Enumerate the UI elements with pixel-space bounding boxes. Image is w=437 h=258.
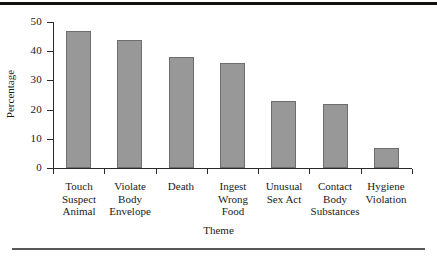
x-axis-tick [309,169,310,174]
y-axis-tick-label: 0 [36,162,42,173]
y-axis-tick [47,51,53,52]
bar [66,31,91,168]
category-label-line: Body [91,193,169,206]
y-axis-line [53,22,54,169]
bottom-rule-divider [12,248,425,250]
x-axis-title: Theme [0,224,437,236]
x-axis-tick [412,169,413,174]
bar [374,148,399,168]
y-axis-tick-label: 30 [31,74,42,85]
bar [271,101,296,168]
y-axis-tick-label: 50 [31,16,42,27]
y-axis-tick [47,80,53,81]
x-axis-category-label: HygieneViolation [347,180,425,205]
y-axis-tick-label: 40 [31,45,42,56]
x-axis-tick [156,169,157,174]
y-axis-tick-label: 10 [31,133,42,144]
category-label-line: Envelope [91,205,169,218]
bar [220,63,245,168]
bar [117,40,142,168]
x-axis-tick [361,169,362,174]
bar [169,57,194,168]
x-axis-tick [104,169,105,174]
x-axis-tick [53,169,54,174]
category-label-line: Hygiene [347,180,425,193]
y-axis-tick-label: 20 [31,104,42,115]
x-axis-tick [258,169,259,174]
y-axis-tick [47,110,53,111]
figure-container: 01020304050 TouchSuspectAnimalViolateBod… [0,0,437,258]
x-axis-line [53,168,412,169]
category-label-line: Food [194,205,272,218]
y-axis-tick [47,139,53,140]
category-label-line: Substances [296,205,374,218]
bar-chart-plot: 01020304050 TouchSuspectAnimalViolateBod… [0,0,437,258]
bar [323,104,348,168]
y-axis-tick [47,22,53,23]
y-axis-title: Percentage [4,44,16,144]
x-axis-tick [207,169,208,174]
category-label-line: Violation [347,193,425,206]
